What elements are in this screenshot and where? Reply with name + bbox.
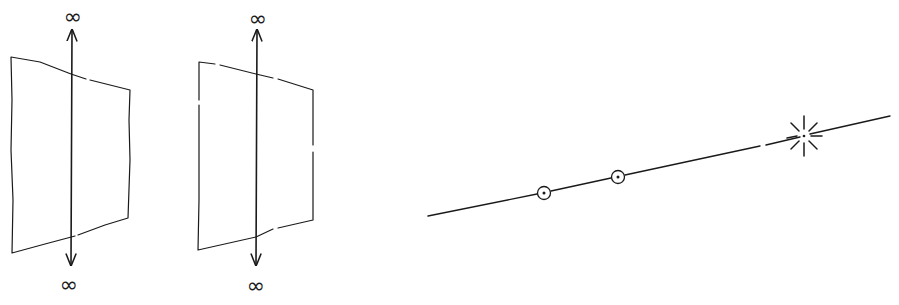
vertical-arrow-2	[256, 30, 257, 265]
infinity-bottom-2: ∞	[247, 275, 265, 297]
vertical-arrow-1	[71, 30, 72, 265]
diagram-canvas	[0, 0, 899, 305]
point-2	[612, 171, 625, 184]
infinity-bottom-1: ∞	[60, 274, 78, 296]
starburst-icon	[787, 116, 822, 156]
projective-line	[428, 116, 890, 216]
plane-1	[11, 30, 130, 265]
point-1	[538, 187, 551, 200]
infinity-top-1: ∞	[64, 6, 82, 28]
infinity-top-2: ∞	[249, 8, 267, 30]
plane-2	[198, 30, 313, 265]
